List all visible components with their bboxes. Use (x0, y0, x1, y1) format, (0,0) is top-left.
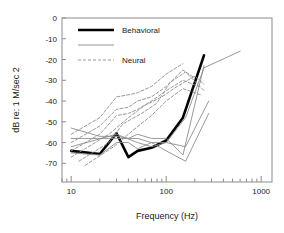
data-series-layer (71, 51, 240, 165)
x-tick-label: 100 (160, 187, 174, 196)
x-tick-label: 1000 (252, 187, 270, 196)
x-axis-tick-labels: 101001000 (67, 187, 271, 196)
series-line-neural (71, 70, 195, 143)
series-line-neural (79, 72, 204, 161)
y-tick-label: -30 (45, 76, 57, 85)
x-axis-ticks (62, 176, 261, 182)
y-tick-label: -70 (45, 159, 57, 168)
y-axis-tick-labels: 0-10-20-30-40-50-60-70 (45, 14, 57, 168)
series-line-behavioral (71, 113, 208, 161)
x-axis-title: Frequency (Hz) (136, 211, 198, 221)
y-tick-label: -10 (45, 35, 57, 44)
y-axis-title: dB re: 1 M/sec 2 (11, 67, 21, 133)
legend-label-neural: Neural (122, 56, 146, 65)
y-axis-ticks (62, 18, 66, 163)
figure-container: 0-10-20-30-40-50-60-70 101001000 Behavio… (0, 0, 284, 233)
series-line-behavioral (71, 51, 240, 146)
y-tick-label: 0 (53, 14, 58, 23)
chart-legend: BehavioralNeural (78, 26, 160, 65)
chart-svg: 0-10-20-30-40-50-60-70 101001000 Behavio… (0, 0, 284, 233)
legend-label-behavioral: Behavioral (122, 26, 160, 35)
y-tick-label: -50 (45, 118, 57, 127)
y-tick-label: -20 (45, 56, 57, 65)
y-tick-label: -60 (45, 139, 57, 148)
y-tick-label: -40 (45, 97, 57, 106)
series-line-neural (71, 64, 183, 135)
x-tick-label: 10 (67, 187, 76, 196)
